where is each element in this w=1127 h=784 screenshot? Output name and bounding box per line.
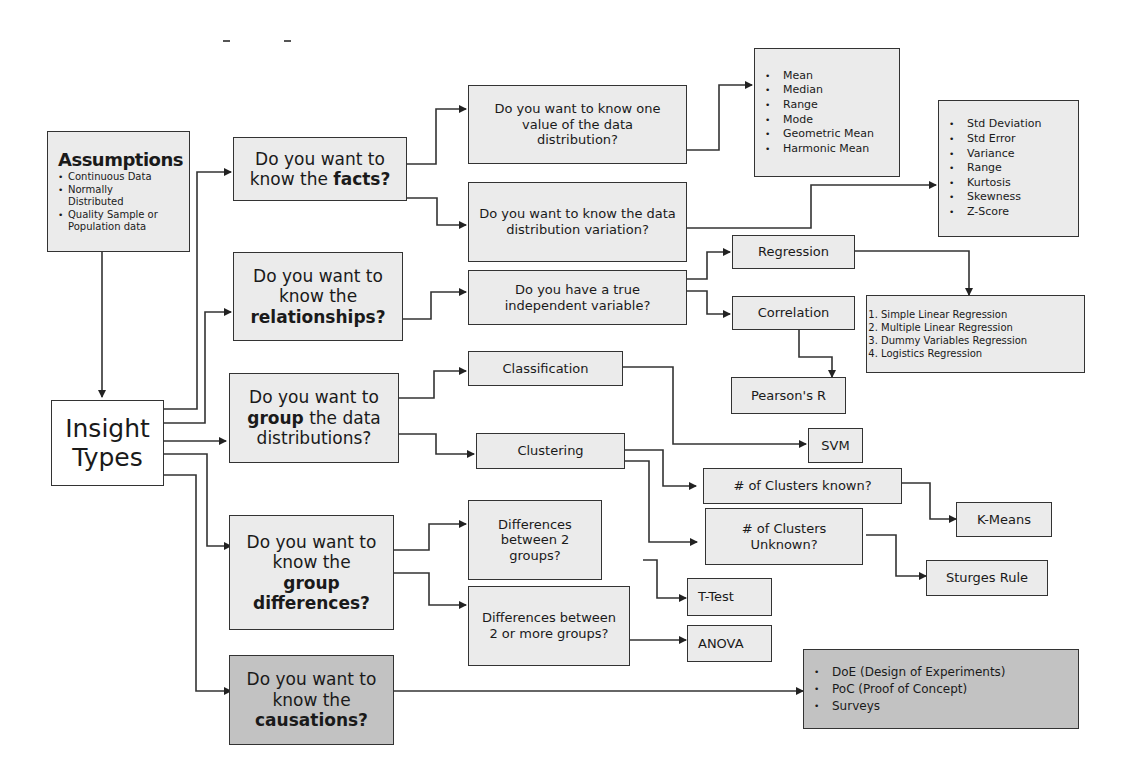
node-label: # of Clusters Unknown? [726, 521, 842, 552]
question-text: Do you want to know one value of the dat… [483, 101, 672, 148]
root-label-line2: Types [72, 443, 142, 473]
question-differences: Do you want to know thegroup differences… [229, 515, 394, 630]
list-item: Median [765, 83, 874, 98]
question-one-value: Do you want to know one value of the dat… [468, 85, 687, 164]
list-item: Kurtosis [949, 176, 1041, 191]
question-text: Differences between 2 or more groups? [479, 610, 619, 641]
root-label-line1: Insight [65, 414, 150, 444]
central-tendency-list: Mean Median Range Mode Geometric Mean Ha… [754, 48, 900, 177]
question-text: Do you want to [249, 387, 379, 407]
list-item: Simple Linear Regression [881, 308, 1027, 321]
bullet-list: DoE (Design of Experiments) PoC (Proof o… [804, 664, 1006, 715]
assumption-item: Continuous Data [58, 171, 178, 184]
node-anova: ANOVA [687, 625, 772, 662]
list-item: Range [765, 98, 874, 113]
question-keyword: group differences? [253, 573, 370, 613]
bullet-list: Std Deviation Std Error Variance Range K… [939, 117, 1041, 219]
question-text: Do you want to know the [247, 532, 377, 572]
node-regression: Regression [732, 235, 855, 269]
question-independent-variable: Do you have a true independent variable? [468, 270, 687, 325]
node-correlation: Correlation [732, 296, 855, 330]
assumptions-box: Assumptions Continuous Data Normally Dis… [47, 131, 190, 252]
node-label: Clustering [517, 443, 583, 459]
assumptions-title: Assumptions [58, 149, 183, 171]
question-text: Do you have a true independent variable? [489, 282, 666, 313]
question-keyword: relationships? [250, 307, 385, 327]
list-item: Logistics Regression [881, 347, 1027, 360]
node-label: Classification [502, 361, 588, 377]
question-facts: Do you want to know the facts? [233, 137, 407, 201]
question-text: Do you want to know the [247, 669, 377, 709]
list-item: Variance [949, 147, 1041, 162]
question-keyword: causations? [255, 710, 368, 730]
question-variation: Do you want to know the data distributio… [468, 182, 687, 262]
list-item: Z-Score [949, 205, 1041, 220]
node-t-test: T-Test [687, 578, 772, 616]
list-item: Dummy Variables Regression [881, 334, 1027, 347]
dispersion-list: Std Deviation Std Error Variance Range K… [938, 100, 1079, 237]
node-clusters-unknown: # of Clusters Unknown? [705, 508, 863, 565]
list-item: Std Error [949, 132, 1041, 147]
question-text: Do you want to know the data distributio… [479, 206, 676, 237]
list-item: Mean [765, 69, 874, 84]
question-keyword: group [247, 408, 304, 428]
question-text: Differences between 2 groups? [479, 517, 591, 564]
node-label: Pearson's R [751, 388, 826, 404]
list-item: Multiple Linear Regression [881, 321, 1027, 334]
numbered-list: Simple Linear Regression Multiple Linear… [867, 308, 1027, 360]
list-item: PoC (Proof of Concept) [814, 681, 1006, 698]
list-item: Harmonic Mean [765, 142, 874, 157]
node-classification: Classification [468, 351, 623, 386]
node-label: Sturges Rule [946, 570, 1028, 586]
question-causations: Do you want to know thecausations? [229, 655, 394, 745]
list-item: Surveys [814, 698, 1006, 715]
question-keyword: facts? [333, 169, 390, 189]
node-label: Correlation [758, 305, 830, 321]
node-label: K-Means [977, 512, 1031, 528]
list-item: Range [949, 161, 1041, 176]
node-k-means: K-Means [956, 502, 1052, 537]
question-diff-2-groups: Differences between 2 groups? [468, 500, 602, 580]
node-clusters-known: # of Clusters known? [703, 468, 902, 504]
assumption-item: Quality Sample or Population data [58, 209, 178, 234]
list-item: Skewness [949, 190, 1041, 205]
regression-types-list: Simple Linear Regression Multiple Linear… [866, 295, 1085, 373]
node-label: SVM [821, 438, 849, 454]
node-label: Regression [758, 244, 829, 260]
list-item: Mode [765, 113, 874, 128]
list-item: DoE (Design of Experiments) [814, 664, 1006, 681]
node-label: # of Clusters known? [733, 478, 871, 494]
node-label: ANOVA [698, 636, 744, 652]
node-sturges-rule: Sturges Rule [926, 560, 1048, 596]
assumptions-list: Continuous Data Normally Distributed Qua… [58, 171, 178, 234]
question-group: Do you want togroup the data distributio… [229, 373, 399, 463]
node-label: T-Test [698, 589, 734, 605]
assumption-item: Normally Distributed [58, 184, 148, 209]
question-relationships: Do you want to know therelationships? [233, 252, 403, 341]
list-item: Geometric Mean [765, 127, 874, 142]
insight-types-root: Insight Types [51, 400, 164, 486]
node-svm: SVM [808, 428, 863, 463]
causation-methods-list: DoE (Design of Experiments) PoC (Proof o… [803, 649, 1079, 729]
question-diff-2-or-more-groups: Differences between 2 or more groups? [468, 586, 630, 666]
list-item: Std Deviation [949, 117, 1041, 132]
node-pearsons-r: Pearson's R [731, 377, 846, 414]
bullet-list: Mean Median Range Mode Geometric Mean Ha… [755, 69, 874, 157]
node-clustering: Clustering [476, 433, 625, 469]
question-text: Do you want to know the [253, 266, 383, 306]
